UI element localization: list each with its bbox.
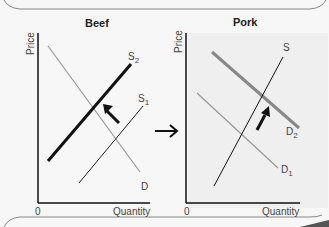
beef-supply2-line xyxy=(48,64,131,161)
diagram-frame: Beef Price 0 Quantity S2 S1 D Pork Price… xyxy=(0,0,329,227)
beef-quantity-label: Quantity xyxy=(113,206,150,217)
beef-s2-label: S2 xyxy=(128,51,139,65)
pork-d1-label: D1 xyxy=(281,164,293,178)
pork-s-label: S xyxy=(283,42,290,53)
connector-arrow-icon xyxy=(155,125,177,137)
beef-shift-arrow xyxy=(103,104,119,123)
pork-price-label: Price xyxy=(173,30,184,53)
pork-d2-label: D2 xyxy=(286,126,298,140)
beef-s1-label: S1 xyxy=(138,93,149,107)
beef-price-label: Price xyxy=(25,32,36,55)
beef-title: Beef xyxy=(85,17,109,29)
beef-d-label: D xyxy=(141,181,148,192)
pork-quantity-label: Quantity xyxy=(262,206,299,217)
pork-title: Pork xyxy=(233,16,257,28)
pork-zero-label: 0 xyxy=(184,206,190,217)
beef-zero-label: 0 xyxy=(35,206,41,217)
beef-supply1-line xyxy=(79,106,143,183)
diagram-canvas xyxy=(0,0,329,227)
